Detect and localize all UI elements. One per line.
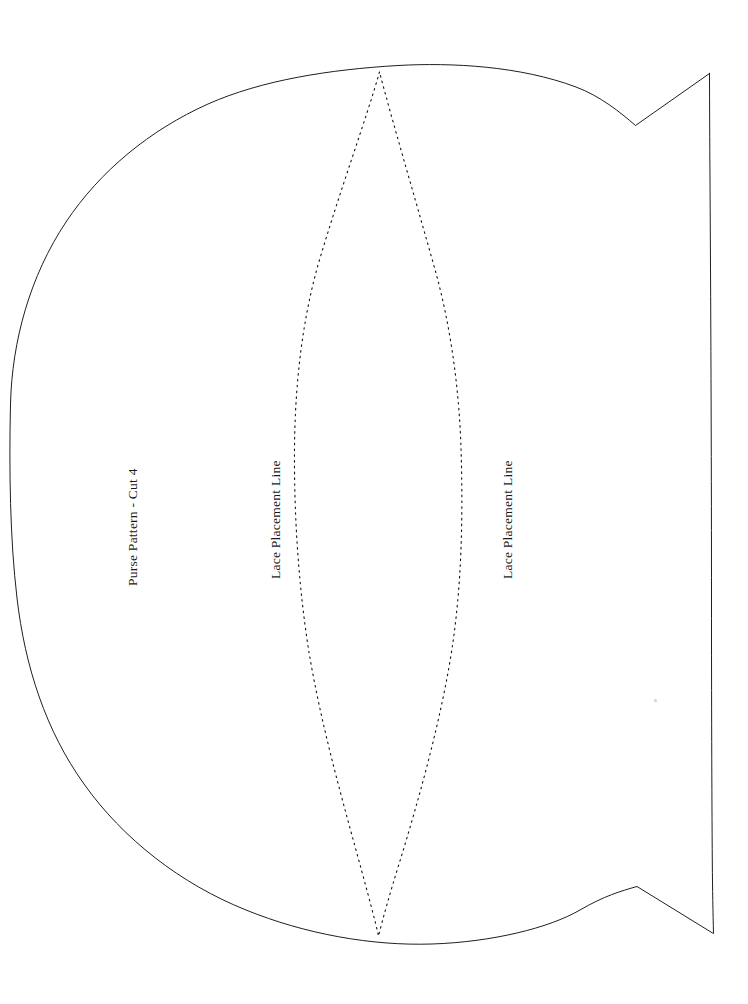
scan-speck-artifact — [654, 699, 657, 702]
pattern-title-label: Purse Pattern - Cut 4 — [125, 468, 141, 586]
lace-placement-line-label-right: Lace Placement Line — [500, 460, 516, 579]
pattern-drawing — [0, 0, 748, 1004]
purse-body-outline — [10, 65, 714, 945]
lace-placement-lens — [294, 72, 461, 936]
pattern-page: Purse Pattern - Cut 4 Lace Placement Lin… — [0, 0, 748, 1004]
lace-placement-line-label-left: Lace Placement Line — [268, 460, 284, 579]
